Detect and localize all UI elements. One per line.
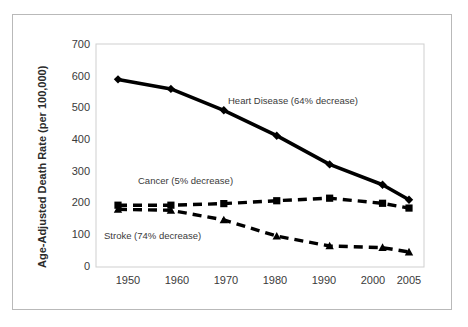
x-tick-label: 1970: [214, 274, 238, 286]
y-tick-label: 200: [72, 196, 90, 208]
x-tick-label: 1980: [263, 274, 287, 286]
y-tick-label: 400: [72, 133, 90, 145]
x-tick-label: 1990: [312, 274, 336, 286]
x-axis-tick-labels: 1950 1960 1970 1980 1990 2000 2005: [116, 274, 421, 286]
annotation-heart-disease: Heart Disease (64% decrease): [228, 95, 358, 106]
x-tick-label: 1960: [165, 274, 189, 286]
x-tick-label: 2005: [397, 274, 421, 286]
x-tick-label: 1950: [116, 274, 140, 286]
line-chart: Age-Adjusted Death Rate (per 100,000) 0 …: [0, 0, 468, 327]
y-tick-label: 500: [72, 101, 90, 113]
y-tick-label: 700: [72, 38, 90, 50]
x-tick-label: 2000: [361, 274, 385, 286]
y-tick-label: 0: [84, 260, 90, 272]
data-point-marker: [405, 204, 412, 211]
y-tick-label: 100: [72, 228, 90, 240]
data-point-marker: [220, 200, 227, 207]
y-tick-label: 300: [72, 165, 90, 177]
y-axis-tick-labels: 0 100 200 300 400 500 600 700: [72, 38, 90, 272]
y-tick-label: 600: [72, 70, 90, 82]
data-point-marker: [273, 197, 280, 204]
data-point-marker: [326, 195, 333, 202]
data-point-marker: [379, 200, 386, 207]
annotation-cancer: Cancer (5% decrease): [138, 175, 233, 186]
chart-figure: Age-Adjusted Death Rate (per 100,000) 0 …: [0, 0, 468, 327]
annotation-stroke: Stroke (74% decrease): [104, 230, 201, 241]
y-axis-title: Age-Adjusted Death Rate (per 100,000): [36, 65, 48, 268]
